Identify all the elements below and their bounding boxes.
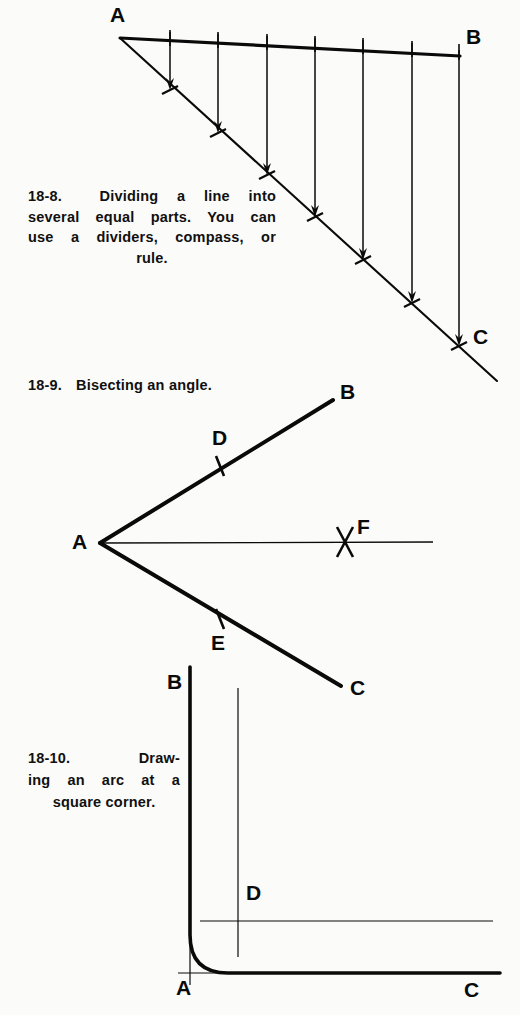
line-AB-angle [100, 400, 333, 543]
fig-18-10-label-D: D [246, 882, 261, 903]
fig-18-9-label-A: A [72, 531, 87, 552]
fig-18-9-label-E: E [211, 632, 225, 653]
fig-18-10-caption-line-2: ing an arc at a [28, 770, 180, 792]
fig-18-8-caption-line-1: Dividing a line into [100, 188, 276, 204]
caption-figure-18-9: 18-9.Bisecting an angle. [28, 375, 212, 396]
projector-3 [259, 36, 275, 179]
fig-18-10-label-B: B [167, 671, 182, 692]
fig-18-10-number: 18-10. [28, 750, 70, 766]
fig-18-10-label-A: A [176, 977, 191, 998]
fig-18-9-label-D: D [212, 427, 227, 448]
projector-4 [307, 38, 323, 221]
fig-18-9-label-B: B [340, 381, 355, 402]
figure-18-10-drawing [178, 667, 500, 985]
fig-18-8-caption-line-4: rule. [28, 248, 276, 269]
fig-18-8-label-B: B [466, 26, 481, 47]
fig-18-9-label-F: F [357, 516, 370, 537]
figures-drawing-layer [0, 0, 520, 1015]
projector-7 [451, 50, 467, 350]
fig-18-10-caption-line-1: Draw- [139, 750, 180, 766]
caption-figure-18-8: 18-8. Dividing a line into several equal… [28, 186, 276, 268]
figure-18-9-drawing [100, 400, 433, 686]
line-AC-angle [100, 543, 341, 686]
projector-6 [404, 43, 420, 307]
fig-18-9-label-C: C [350, 677, 365, 698]
caption-figure-18-10: 18-10. Draw- ing an arc at a square corn… [28, 748, 180, 813]
page-canvas: A B C 18-8. Dividing a line into several… [0, 0, 520, 1015]
fig-18-8-caption-line-2: several equal parts. You can [28, 207, 276, 228]
fig-18-10-caption-line-3: square corner. [28, 792, 180, 814]
fig-18-9-caption-line-1: Bisecting an angle. [76, 377, 212, 393]
line-AB [120, 38, 460, 56]
fig-18-10-label-C: C [464, 979, 479, 1000]
fig-18-9-number: 18-9. [28, 377, 62, 393]
fig-18-8-label-C: C [473, 326, 488, 347]
line-bisector [100, 542, 433, 543]
fig-18-8-number: 18-8. [28, 188, 62, 204]
fig-18-8-caption-line-3: use a dividers, compass, or [28, 227, 276, 248]
fig-18-8-label-A: A [110, 4, 125, 25]
corner-arc-path [190, 667, 500, 973]
projector-5 [355, 40, 371, 264]
